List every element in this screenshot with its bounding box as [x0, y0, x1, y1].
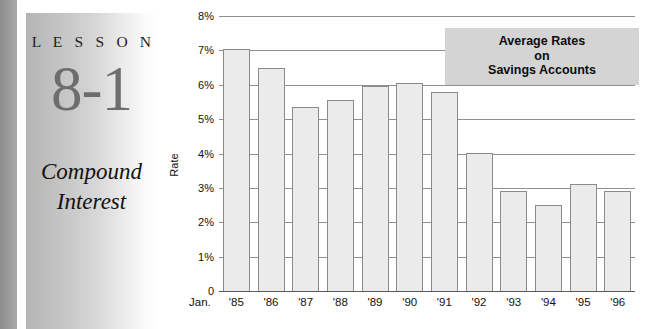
bar-87 [292, 107, 319, 291]
y-tick-label: 2% [198, 216, 214, 228]
x-tick-label: '94 [531, 296, 566, 308]
lesson-content: L E S S O N 8-1 Compound Interest [26, 13, 157, 329]
bar-85 [223, 49, 250, 291]
lesson-title-line-2: Interest [26, 187, 157, 217]
y-tick-label: 4% [198, 148, 214, 160]
bar-96 [604, 191, 631, 291]
lesson-number: 8-1 [26, 55, 157, 123]
x-axis-tick-labels: '85'86'87'88'89'90'91'92'93'94'95'96 [219, 296, 635, 308]
x-tick-label: '90 [392, 296, 427, 308]
bar-95 [570, 184, 597, 291]
x-tick-label: '95 [566, 296, 601, 308]
bar-88 [327, 100, 354, 291]
bar-93 [500, 191, 527, 291]
bar-90 [396, 83, 423, 291]
legend-line-1: Average Rates [449, 34, 635, 49]
chart-title-legend-box: Average Rates on Savings Accounts [445, 28, 639, 85]
x-axis-jan-label: Jan. [189, 296, 211, 308]
x-tick-label: '89 [358, 296, 393, 308]
bar-94 [535, 205, 562, 291]
x-tick-label: '87 [288, 296, 323, 308]
panel-white-gap [17, 0, 26, 329]
y-tick-label: 3% [198, 182, 214, 194]
legend-line-2: on [449, 49, 635, 64]
x-tick-label: '85 [219, 296, 254, 308]
y-axis-title: Rate [168, 153, 180, 176]
lesson-panel: L E S S O N 8-1 Compound Interest [0, 0, 186, 329]
bar-slot [323, 16, 358, 291]
x-tick-label: '86 [254, 296, 289, 308]
bar-92 [466, 153, 493, 291]
y-tick-label: 6% [198, 79, 214, 91]
panel-left-edge-strip [0, 0, 17, 329]
bar-89 [362, 86, 389, 291]
x-tick-label: '91 [427, 296, 462, 308]
y-tick-label: 1% [198, 251, 214, 263]
lesson-word-label: L E S S O N [26, 33, 157, 51]
y-tick-label: 8% [198, 10, 214, 22]
bar-slot [219, 16, 254, 291]
bar-chart: 01%2%3%4%5%6%7%8% Rate Jan. '85'86'87'88… [186, 0, 655, 329]
bar-91 [431, 92, 458, 291]
x-tick-label: '93 [496, 296, 531, 308]
lesson-title: Compound Interest [26, 157, 157, 217]
bar-slot [358, 16, 393, 291]
x-tick-label: '92 [462, 296, 497, 308]
x-axis-baseline [219, 291, 635, 292]
x-tick-label: '88 [323, 296, 358, 308]
y-tick-label: 5% [198, 113, 214, 125]
bar-slot [392, 16, 427, 291]
bar-slot [254, 16, 289, 291]
lesson-title-line-1: Compound [26, 157, 157, 187]
y-tick-label: 7% [198, 44, 214, 56]
x-tick-label: '96 [600, 296, 635, 308]
bar-86 [258, 68, 285, 291]
bar-slot [288, 16, 323, 291]
legend-line-3: Savings Accounts [449, 63, 635, 78]
